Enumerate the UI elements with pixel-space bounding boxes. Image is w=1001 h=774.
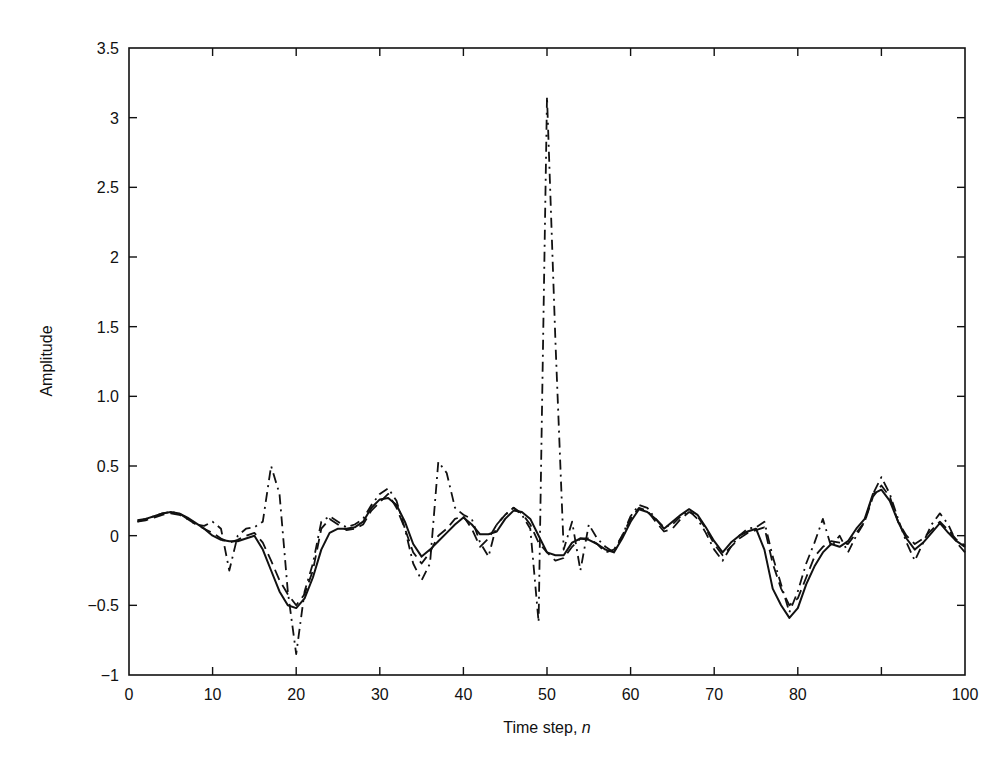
x-tick-label: 70 <box>705 686 723 703</box>
y-tick-label: 2 <box>110 249 119 266</box>
x-axis-title: Time step, n <box>503 719 591 736</box>
y-tick-label: 2.5 <box>97 179 119 196</box>
y-axis-title: Amplitude <box>38 325 55 396</box>
y-tick-label: 3 <box>110 110 119 127</box>
y-tick-label: 1.5 <box>97 319 119 336</box>
x-tick-label: 60 <box>622 686 640 703</box>
x-tick-label: 100 <box>952 686 979 703</box>
y-tick-label: 0 <box>110 528 119 545</box>
x-tick-label: 80 <box>789 686 807 703</box>
x-tick-label: 50 <box>538 686 556 703</box>
x-tick-label: 30 <box>371 686 389 703</box>
y-tick-label: 0.5 <box>97 458 119 475</box>
y-tick-label: −1 <box>101 667 119 684</box>
line-chart: 01020304050607080100 −1−0.500.51.01.522.… <box>0 0 1001 774</box>
x-tick-label: 10 <box>204 686 222 703</box>
y-tick-label: −0.5 <box>87 597 119 614</box>
x-tick-label: 40 <box>455 686 473 703</box>
y-tick-label: 1.0 <box>97 388 119 405</box>
x-tick-label: 0 <box>125 686 134 703</box>
y-tick-label: 3.5 <box>97 40 119 57</box>
x-tick-label: 20 <box>287 686 305 703</box>
